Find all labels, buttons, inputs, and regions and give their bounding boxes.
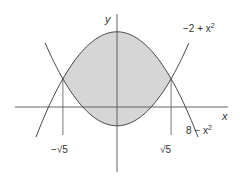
curve-label-bottom-text: 8 − x	[186, 125, 208, 136]
curve-label-8-minus-x2: 8 − x2	[186, 124, 212, 136]
curve-label-top-text: −2 + x	[183, 23, 211, 34]
curve-label-minus2-plus-x2: −2 + x2	[183, 22, 215, 34]
curve-8-minus-x2-left-tail	[36, 79, 63, 137]
curve-minus2-plus-x2-right	[171, 43, 189, 79]
region-diagram: y x −2 + x2 8 − x2 −√5 √5	[0, 0, 240, 176]
curve-label-top-exp: 2	[211, 22, 215, 29]
y-axis-label: y	[104, 13, 112, 25]
pos-root-label: √5	[160, 144, 171, 155]
curve-label-bottom-exp: 2	[208, 124, 212, 131]
neg-root-label: −√5	[51, 144, 68, 155]
curve-minus2-plus-x2-left	[45, 43, 63, 79]
x-axis-label: x	[221, 110, 228, 122]
